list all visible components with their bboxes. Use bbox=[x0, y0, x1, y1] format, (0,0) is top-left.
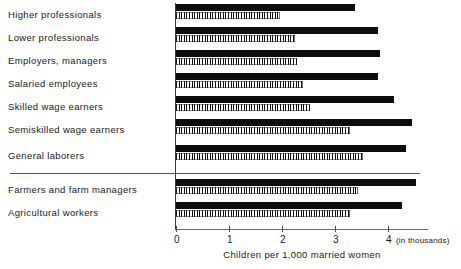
bar-agricultural-workers-solid bbox=[176, 202, 402, 209]
category-label-skilled-wage-earners: Skilled wage earners bbox=[8, 101, 103, 112]
bar-higher-professionals-hatched bbox=[176, 12, 280, 19]
bar-lower-professionals-solid bbox=[176, 27, 378, 34]
bar-semiskilled-wage-earners-hatched bbox=[176, 127, 350, 134]
x-ticklabel-3: 3 bbox=[333, 234, 339, 245]
category-label-lower-professionals: Lower professionals bbox=[8, 32, 99, 43]
x-axis-title: Children per 1,000 married women bbox=[176, 249, 428, 260]
category-label-salaried-employees: Salaried employees bbox=[8, 78, 98, 89]
x-ticklabel-2: 2 bbox=[280, 234, 286, 245]
x-tick-2 bbox=[282, 226, 283, 232]
x-tick-3 bbox=[335, 226, 336, 232]
bar-farmers-and-farm-managers-solid bbox=[176, 179, 416, 186]
x-axis-units-note: (in thousands) bbox=[396, 236, 450, 245]
bar-agricultural-workers-hatched bbox=[176, 210, 350, 217]
bar-employers-managers-solid bbox=[176, 50, 380, 57]
group-divider-line bbox=[10, 173, 420, 174]
bar-chart-figure: Higher professionals Lower professionals… bbox=[0, 0, 461, 269]
bar-lower-professionals-hatched bbox=[176, 35, 295, 42]
x-ticklabel-0: 0 bbox=[174, 234, 180, 245]
category-label-farmers-and-farm-managers: Farmers and farm managers bbox=[8, 184, 137, 195]
x-tick-1 bbox=[229, 226, 230, 232]
bar-salaried-employees-hatched bbox=[176, 81, 303, 88]
bar-higher-professionals-solid bbox=[176, 4, 355, 11]
category-label-agricultural-workers: Agricultural workers bbox=[8, 207, 98, 218]
x-ticklabel-1: 1 bbox=[227, 234, 233, 245]
x-ticklabel-4: 4 bbox=[386, 234, 392, 245]
x-tick-0 bbox=[176, 226, 177, 232]
bar-skilled-wage-earners-solid bbox=[176, 96, 394, 103]
category-label-semiskilled-wage-earners: Semiskilled wage earners bbox=[8, 124, 125, 135]
value-axis-horizontal-line bbox=[175, 229, 428, 230]
category-label-employers-managers: Employers, managers bbox=[8, 55, 107, 66]
bar-general-laborers-hatched bbox=[176, 153, 363, 160]
bar-semiskilled-wage-earners-solid bbox=[176, 119, 412, 126]
bar-salaried-employees-solid bbox=[176, 73, 378, 80]
bar-general-laborers-solid bbox=[176, 145, 406, 152]
bar-employers-managers-hatched bbox=[176, 58, 297, 65]
category-label-higher-professionals: Higher professionals bbox=[8, 9, 102, 20]
bar-farmers-and-farm-managers-hatched bbox=[176, 187, 358, 194]
x-tick-4 bbox=[388, 226, 389, 232]
bar-skilled-wage-earners-hatched bbox=[176, 104, 310, 111]
category-label-general-laborers: General laborers bbox=[8, 150, 84, 161]
